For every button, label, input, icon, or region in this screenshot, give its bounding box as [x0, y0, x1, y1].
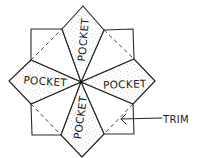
pocket-right-label: POCKET	[103, 77, 147, 91]
center-point	[80, 81, 83, 84]
folded-star-diagram: POCKET POCKET POCKET POCKET TRIM	[0, 0, 208, 158]
trim-label: TRIM	[162, 114, 189, 125]
